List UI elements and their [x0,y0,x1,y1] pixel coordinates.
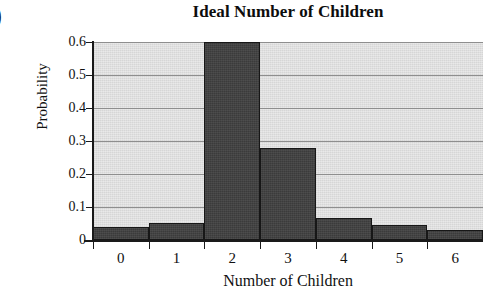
x-tick-label: 4 [324,251,364,266]
y-axis-label: Probability [34,42,51,152]
x-tick-label: 2 [212,251,252,266]
y-tick-label: 0.2 [52,167,86,181]
y-tick-mark [86,207,93,208]
bar [204,42,260,240]
y-tick-label: 0.3 [52,134,86,148]
bar [93,227,149,240]
x-tick-mark [427,242,428,249]
y-tick-label: 0 [52,233,86,247]
x-tick-mark [204,242,205,249]
y-tick-label: 0.5 [52,68,86,82]
x-axis-label: Number of Children [93,272,483,290]
x-tick-label: 6 [435,251,475,266]
y-tick-label: 0.4 [52,101,86,115]
y-tick-mark [86,240,93,241]
y-tick-label: 0.6 [52,35,86,49]
gridline [93,141,483,142]
x-tick-mark [372,242,373,249]
x-tick-mark [149,242,150,249]
y-tick-mark [86,42,93,43]
y-tick-mark [86,108,93,109]
y-tick-mark [86,174,93,175]
bar [316,218,372,240]
gridline [93,42,483,43]
y-tick-mark [86,75,93,76]
x-tick-label: 1 [157,251,197,266]
bar [372,225,428,240]
plot-area [93,42,483,240]
x-tick-label: 0 [101,251,141,266]
x-tick-label: 3 [268,251,308,266]
y-axis-tick-labels: 00.10.20.30.40.50.6 [50,0,86,299]
y-tick-label: 0.1 [52,200,86,214]
bar [260,148,316,240]
chart-figure: ) Ideal Number of Children Probability 0… [0,0,483,299]
x-tick-mark [260,242,261,249]
x-axis-line [84,240,483,242]
bar [149,223,205,240]
chart-title: Ideal Number of Children [93,2,483,22]
stray-paren-artifact: ) [0,2,2,29]
gridline [93,108,483,109]
x-tick-mark [93,242,94,249]
x-tick-label: 5 [379,251,419,266]
bar [427,230,483,240]
y-tick-mark [86,141,93,142]
x-tick-mark [316,242,317,249]
gridline [93,75,483,76]
